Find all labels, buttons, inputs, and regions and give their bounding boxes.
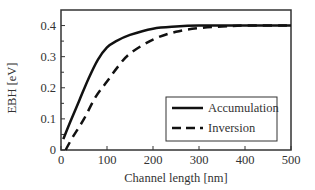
chart: 010020030040050000.10.20.30.4 Accumulati… bbox=[0, 0, 315, 190]
y-tick-label: 0.4 bbox=[40, 19, 56, 33]
x-tick-label: 500 bbox=[282, 153, 301, 167]
y-tick-label: 0 bbox=[50, 143, 56, 157]
x-axis-label: Channel length [nm] bbox=[124, 171, 227, 185]
y-tick-label: 0.2 bbox=[40, 81, 56, 95]
legend-label-inversion: Inversion bbox=[208, 121, 256, 135]
y-axis-label: EBH [eV] bbox=[5, 62, 19, 113]
legend: Accumulation Inversion bbox=[166, 97, 280, 141]
y-tick-label: 0.1 bbox=[40, 112, 56, 126]
legend-label-accumulation: Accumulation bbox=[208, 101, 280, 115]
x-tick-label: 200 bbox=[144, 153, 163, 167]
x-tick-label: 100 bbox=[98, 153, 117, 167]
x-tick-label: 400 bbox=[236, 153, 255, 167]
x-tick-label: 300 bbox=[190, 153, 209, 167]
ticks: 010020030040050000.10.20.30.4 bbox=[40, 19, 300, 167]
x-tick-label: 0 bbox=[58, 153, 64, 167]
y-tick-label: 0.3 bbox=[40, 50, 56, 64]
